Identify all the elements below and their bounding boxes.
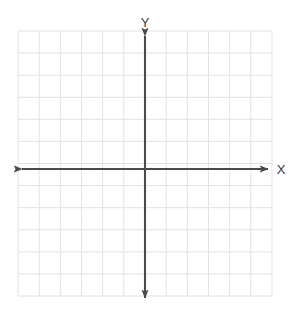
x-axis-label: X bbox=[277, 162, 286, 177]
coordinate-plane-svg: Y X bbox=[0, 0, 297, 312]
y-axis-label: Y bbox=[141, 15, 150, 30]
coordinate-plane-figure: Y X bbox=[0, 0, 297, 312]
